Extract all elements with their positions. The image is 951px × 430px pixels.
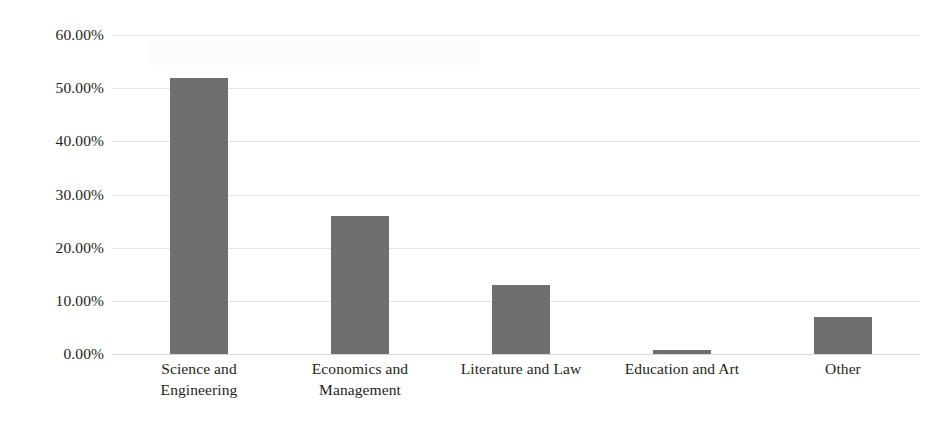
x-label-line-1: Education and Art [602,358,762,379]
x-label-line-1: Literature and Law [441,358,601,379]
bar-economics-and-management [331,216,389,354]
bar-chart: 60.00% 50.00% 40.00% 30.00% 20.00% 10.00… [0,0,951,430]
bar-slot-literature-and-law [492,35,550,354]
x-label-line-1: Economics and [280,358,440,379]
x-label-other: Other [763,358,923,379]
x-label-literature-and-law: Literature and Law [441,358,601,379]
y-tick-label-40: 40.00% [18,133,104,149]
bar-series [112,35,920,354]
x-label-science-and-engineering: Science and Engineering [119,358,279,400]
x-label-line-1: Other [763,358,923,379]
bar-slot-economics-and-management [331,35,389,354]
x-axis-category-labels: Science and Engineering Economics and Ma… [112,358,920,424]
y-tick-label-50: 50.00% [18,80,104,96]
bar-slot-education-and-art [653,35,711,354]
y-axis-tick-labels: 60.00% 50.00% 40.00% 30.00% 20.00% 10.00… [0,0,104,430]
x-label-line-1: Science and [119,358,279,379]
bar-slot-science-and-engineering [170,35,228,354]
bar-education-and-art [653,350,711,354]
gridline-baseline-0 [112,354,920,355]
x-label-education-and-art: Education and Art [602,358,762,379]
y-tick-label-60: 60.00% [18,27,104,43]
bar-other [814,317,872,354]
x-label-economics-and-management: Economics and Management [280,358,440,400]
y-tick-label-20: 20.00% [18,240,104,256]
bar-literature-and-law [492,285,550,354]
y-tick-label-30: 30.00% [18,187,104,203]
bar-slot-other [814,35,872,354]
bar-science-and-engineering [170,78,228,354]
x-label-line-2: Engineering [119,379,279,400]
y-tick-label-10: 10.00% [18,293,104,309]
y-tick-label-0: 0.00% [18,346,104,362]
x-label-line-2: Management [280,379,440,400]
